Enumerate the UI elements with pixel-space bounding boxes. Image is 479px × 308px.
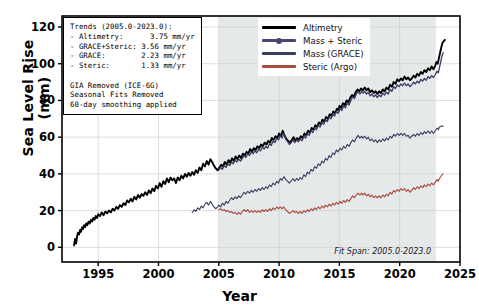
x-tick-label: 2010 bbox=[263, 267, 295, 281]
x-tick-label: 1995 bbox=[82, 267, 114, 281]
trends-info-box: Trends (2005.0-2023.0): - Altimetry: 3.7… bbox=[63, 17, 202, 115]
y-tick-label: 0 bbox=[47, 240, 55, 254]
legend-swatch-2 bbox=[262, 35, 296, 46]
x-tick-label: 2025 bbox=[444, 267, 476, 281]
legend-swatch-1 bbox=[262, 22, 296, 33]
fit-span-annotation: Fit Span: 2005.0-2023.0 bbox=[334, 247, 431, 256]
legend-item: Altimetry bbox=[262, 21, 364, 34]
legend-label: Altimetry bbox=[303, 23, 343, 33]
x-tick-label: 2015 bbox=[323, 267, 355, 281]
x-tick-label: 2005 bbox=[203, 267, 235, 281]
legend-label: Mass (GRACE) bbox=[303, 49, 364, 59]
legend-item: Mass (GRACE) bbox=[262, 47, 364, 60]
x-axis-label: Year bbox=[0, 288, 479, 304]
legend-item: Steric (Argo) bbox=[262, 60, 364, 73]
x-tick-label: 2000 bbox=[142, 267, 174, 281]
legend-item: Mass + Steric bbox=[262, 34, 364, 47]
legend-swatch-4 bbox=[262, 61, 296, 72]
x-tick-label: 2020 bbox=[384, 267, 416, 281]
legend-label: Mass + Steric bbox=[303, 36, 362, 46]
y-tick-label: 20 bbox=[39, 204, 55, 218]
legend-swatch-3 bbox=[262, 48, 296, 59]
legend-label: Steric (Argo) bbox=[303, 62, 357, 72]
y-axis-label: Sea Level Rise (mm) bbox=[20, 18, 52, 178]
sea-level-rise-figure: 0204060801001201995200020052010201520202… bbox=[0, 0, 479, 308]
chart-legend: AltimetryMass + StericMass (GRACE)Steric… bbox=[258, 18, 370, 76]
